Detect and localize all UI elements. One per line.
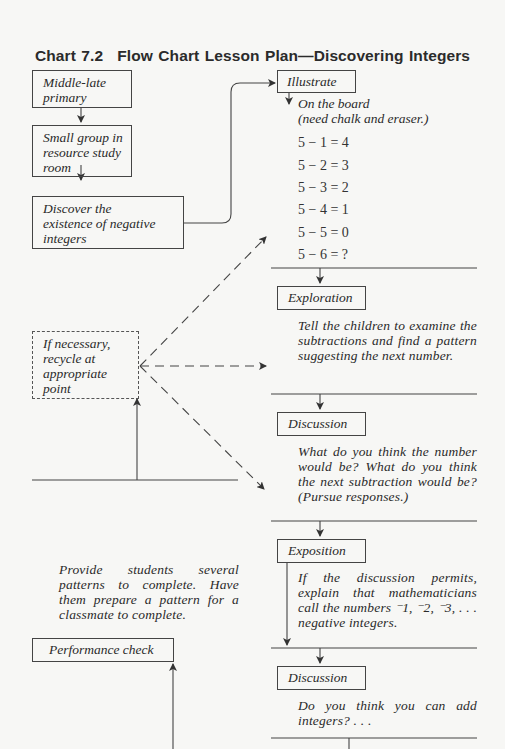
equation: 5 − 1 = 4 (298, 135, 349, 151)
box-line: recycle at (43, 351, 138, 366)
box-line: Discover the (43, 201, 183, 216)
box-discussion-2: Discussion (277, 666, 366, 690)
recycle-arrow-down (140, 366, 264, 489)
box-small-group: Small group in resource study room (32, 125, 132, 177)
box-line: room (43, 160, 131, 175)
box-exploration: Exploration (277, 286, 366, 310)
equation: 5 − 5 = 0 (298, 225, 349, 241)
illustrate-note-line2: (need chalk and eraser.) (298, 111, 428, 126)
box-middle-late-primary: Middle-late primary (32, 70, 132, 108)
box-recycle: If necessary, recycle at appropriate poi… (32, 331, 139, 399)
box-illustrate: Illustrate (277, 70, 356, 93)
box-line: appropriate (43, 366, 138, 381)
box-line: integers (43, 231, 183, 246)
box-line: existence of negative (43, 216, 183, 231)
box-performance-check: Performance check (32, 638, 174, 662)
box-line: Middle-late (43, 75, 131, 90)
box-discover-negative-integers: Discover the existence of negative integ… (32, 196, 184, 249)
equation: 5 − 4 = 1 (298, 202, 349, 218)
box-line: primary (43, 90, 131, 105)
box-discussion-1: Discussion (277, 412, 366, 436)
exploration-text: Tell the children to examine the subtrac… (298, 318, 477, 363)
equation: 5 − 3 = 2 (298, 180, 349, 196)
exposition-text: If the discussion permits, explain that … (298, 570, 477, 630)
box-line: point (43, 381, 138, 396)
box-line: resource study (43, 145, 131, 160)
recycle-arrow-up (140, 237, 266, 366)
equation: 5 − 6 = ? (298, 247, 348, 263)
discussion-1-text: What do you think the number would be? W… (298, 444, 477, 504)
box-exposition: Exposition (277, 539, 366, 563)
arrow-discover-to-illustrate (183, 83, 275, 223)
discussion-2-text: Do you think you can add integers? . . . (298, 698, 477, 728)
box-line: Small group in (43, 130, 131, 145)
equation: 5 − 2 = 3 (298, 158, 349, 174)
illustrate-note-line1: On the board (298, 96, 370, 111)
practice-note: Provide students several patterns to com… (59, 562, 239, 622)
box-line: If necessary, (43, 336, 138, 351)
